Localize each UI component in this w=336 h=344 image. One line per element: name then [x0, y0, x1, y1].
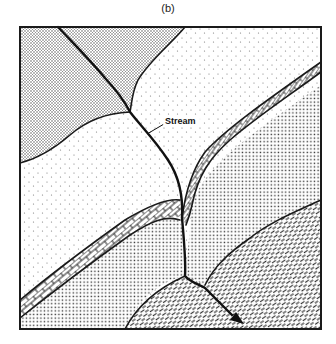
stream-label: Stream	[165, 116, 196, 126]
geologic-map: Stream	[0, 0, 336, 344]
